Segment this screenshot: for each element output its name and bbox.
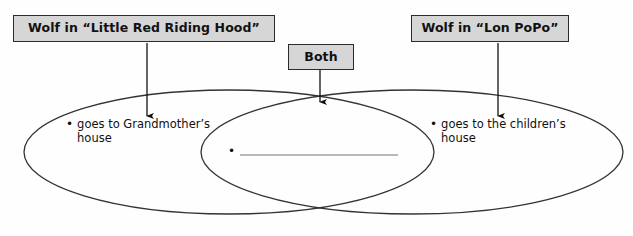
- bullet-intersection: •: [228, 146, 408, 156]
- bullet-right-only-text: goes to the children’s house: [441, 118, 582, 145]
- label-box-both-text: Both: [304, 51, 337, 64]
- bullet-dot-icon: •: [66, 118, 73, 132]
- label-box-left-set: Wolf in “Little Red Riding Hood”: [13, 15, 275, 42]
- bullet-left-only-text: goes to Grandmother’s house: [77, 118, 216, 145]
- bullet-right-only: • goes to the children’s house: [430, 118, 582, 145]
- bullet-left-only: • goes to Grandmother’s house: [66, 118, 216, 145]
- venn-diagram-canvas: Wolf in “Little Red Riding Hood” Both Wo…: [0, 0, 633, 236]
- bullet-dot-icon: •: [228, 146, 235, 156]
- label-box-right-text: Wolf in “Lon PoPo”: [421, 22, 558, 35]
- label-box-intersection: Both: [288, 44, 354, 70]
- label-box-right-set: Wolf in “Lon PoPo”: [411, 15, 569, 42]
- label-box-left-text: Wolf in “Little Red Riding Hood”: [28, 22, 260, 35]
- blank-answer-line[interactable]: [240, 154, 398, 156]
- bullet-dot-icon: •: [430, 118, 437, 132]
